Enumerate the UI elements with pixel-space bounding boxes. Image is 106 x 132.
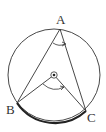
- center-point: [53, 74, 56, 77]
- label-c: C: [87, 110, 96, 125]
- arc-bc-highlight: [17, 103, 86, 123]
- angle-arc-o: [43, 84, 64, 89]
- radius-ob: [17, 75, 54, 103]
- diagram-canvas: A B C: [0, 0, 106, 132]
- chord-ac: [60, 29, 86, 111]
- radius-oc: [54, 75, 86, 111]
- label-b: B: [6, 102, 15, 117]
- angle-arc-a: [53, 43, 65, 45]
- label-a: A: [56, 12, 66, 27]
